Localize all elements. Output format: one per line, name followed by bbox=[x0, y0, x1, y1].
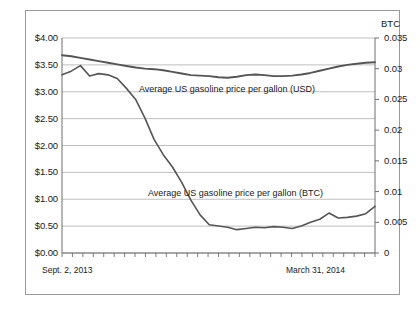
y-axis-left-tick-label: $4.00 bbox=[20, 32, 58, 43]
y-axis-left-tick-label: $3.50 bbox=[20, 59, 58, 70]
y-axis-left-tick-label: $3.00 bbox=[20, 86, 58, 97]
annotation-btc-series: Average US gasoline price per gallon (BT… bbox=[148, 188, 323, 198]
y-axis-left-tick-label: $0.00 bbox=[20, 247, 58, 258]
y-axis-left-tick-label: $0.50 bbox=[20, 220, 58, 231]
date-label-start: Sept. 2, 2013 bbox=[42, 265, 93, 275]
y-axis-left-tick-label: $2.00 bbox=[20, 140, 58, 151]
y-axis-right-tick-label: 0.035 bbox=[384, 32, 407, 43]
y-axis-right-tick-label: 0.025 bbox=[384, 93, 407, 104]
y-axis-right-tick-label: 0.02 bbox=[384, 124, 402, 135]
y-axis-left-tick-label: $1.50 bbox=[20, 166, 58, 177]
x-axis-ticks bbox=[62, 253, 375, 257]
date-label-end: March 31, 2014 bbox=[286, 265, 345, 275]
y-axis-right-ticks bbox=[375, 38, 379, 253]
y-axis-left-tick-label: $1.00 bbox=[20, 193, 58, 204]
y-axis-right-tick-label: 0.015 bbox=[384, 155, 407, 166]
y-axis-right-tick-label: 0.03 bbox=[384, 63, 402, 74]
annotation-usd-series: Average US gasoline price per gallon (US… bbox=[139, 84, 315, 94]
y-axis-right-tick-label: 0.005 bbox=[384, 216, 407, 227]
y-axis-right-tick-label: 0 bbox=[384, 247, 389, 258]
y-axis-right-tick-label: 0.01 bbox=[384, 186, 402, 197]
btc-axis-title: BTC bbox=[381, 18, 400, 29]
y-axis-left-tick-label: $2.50 bbox=[20, 113, 58, 124]
gridlines bbox=[62, 38, 375, 253]
